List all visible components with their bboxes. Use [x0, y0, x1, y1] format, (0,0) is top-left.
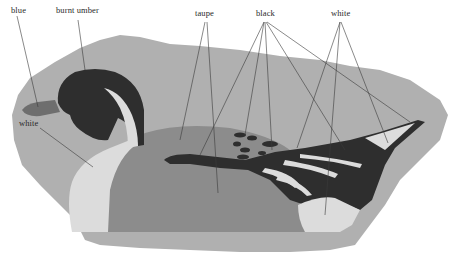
duck-illustration [0, 0, 458, 265]
label-black: black [256, 8, 275, 18]
label-burnt-umber: burnt umber [56, 5, 99, 15]
label-white-breast: white [19, 118, 38, 128]
label-white-tail: white [331, 8, 350, 18]
label-taupe: taupe [195, 8, 214, 18]
duck-diagram: blue burnt umber taupe black white white [0, 0, 458, 265]
label-blue: blue [11, 5, 26, 15]
